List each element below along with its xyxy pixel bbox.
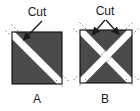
cut-diagram-figure: Cut A: [0, 0, 140, 111]
panel-b-letter: B: [101, 92, 109, 106]
panel-a: Cut A: [0, 5, 77, 106]
panel-b: Cut B: [69, 4, 140, 106]
panel-a-cut-label: Cut: [28, 5, 47, 19]
diagram-canvas: Cut A: [0, 0, 140, 111]
panel-b-cut-label: Cut: [96, 4, 115, 18]
panel-a-letter: A: [33, 92, 41, 106]
